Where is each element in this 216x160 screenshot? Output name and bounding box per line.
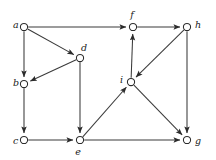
nodes-layer [20, 23, 190, 143]
graph-node-a [20, 23, 27, 30]
graph-node-label-f: f [129, 9, 135, 20]
graph-node-label-d: d [81, 42, 87, 53]
graph-node-i [127, 78, 134, 85]
graph-node-label-b: b [13, 77, 19, 88]
graph-edge-i-f [131, 34, 133, 78]
graph-edge-a-d [28, 29, 74, 55]
graph-node-label-h: h [195, 19, 201, 30]
graph-node-e [76, 136, 83, 143]
graph-node-h [183, 23, 190, 30]
graph-node-label-c: c [13, 135, 19, 146]
graph-canvas: abcdefghi [0, 0, 216, 160]
graph-node-d [76, 54, 83, 61]
graph-node-c [20, 136, 27, 143]
labels-layer: abcdefghi [13, 9, 201, 157]
graph-node-label-e: e [75, 146, 81, 157]
graph-edge-h-i [136, 30, 184, 77]
graph-node-b [20, 80, 27, 87]
directed-graph-figure: abcdefghi [0, 0, 216, 160]
graph-node-g [183, 136, 190, 143]
graph-edge-e-i [83, 87, 127, 137]
graph-node-f [129, 23, 136, 30]
graph-edge-d-b [30, 60, 76, 81]
graph-node-label-g: g [195, 135, 201, 146]
graph-node-label-a: a [13, 19, 19, 30]
graph-edge-i-g [134, 85, 182, 135]
graph-node-label-i: i [120, 74, 123, 85]
edges-layer [24, 27, 187, 140]
